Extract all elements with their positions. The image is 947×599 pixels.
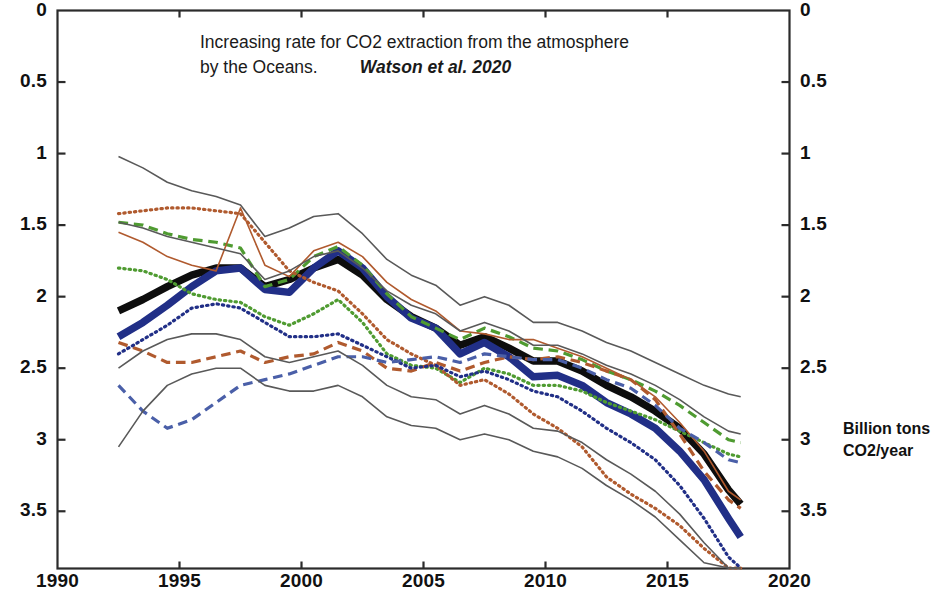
chart-figure: Increasing rate for CO2 extraction from … [0,0,947,599]
chart-title-line-1: Increasing rate for CO2 extraction from … [200,30,780,55]
series-model-orange-dotted [119,208,741,568]
y-axis-right-label-3.5: 3.5 [800,499,860,521]
chart-citation: Watson et al. 2020 [360,57,511,77]
chart-title-line-2: by the Oceans.Watson et al. 2020 [200,55,780,80]
series-model-orange-solid [119,208,741,500]
x-axis-label-2020: 2020 [750,570,830,592]
x-axis-label-1995: 1995 [140,570,220,592]
chart-title-subject: by the Oceans. [200,57,318,77]
y-axis-right-label-1.5: 1.5 [800,213,860,235]
y-axis-left-label-1: 1 [0,142,47,164]
x-axis-label-2005: 2005 [384,570,464,592]
x-axis-label-2000: 2000 [262,570,342,592]
y-axis-right-label-1: 1 [800,142,860,164]
y-axis-right-label-0.5: 0.5 [800,70,860,92]
x-axis-label-2010: 2010 [506,570,586,592]
y-axis-left-label-3.5: 3.5 [0,499,47,521]
chart-title: Increasing rate for CO2 extraction from … [200,30,780,80]
data-series-group [119,156,741,568]
y-axis-left-label-2.5: 2.5 [0,356,47,378]
x-axis-label-1990: 1990 [18,570,98,592]
y-axis-right-label-3: 3 [800,428,860,450]
y-axis-right-label-2: 2 [800,285,860,307]
y-axis-left-label-2: 2 [0,285,47,307]
y-axis-right-label-2.5: 2.5 [800,356,860,378]
y-axis-left-label-0.5: 0.5 [0,70,47,92]
x-axis-label-2015: 2015 [628,570,708,592]
y-axis-left-label-1.5: 1.5 [0,213,47,235]
series-model-blue-dotted [119,304,741,568]
y-axis-left-label-0: 0 [0,0,47,21]
y-axis-right-label-0: 0 [800,0,860,21]
y-axis-left-label-3: 3 [0,428,47,450]
